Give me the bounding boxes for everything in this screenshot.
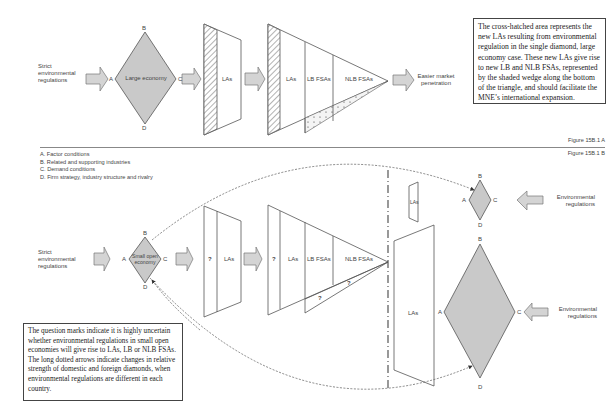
input-label-b: Strict environmental regulations [38,249,82,270]
legend-item-a: A. Factor conditions [40,151,153,159]
fs-vertex-a: A [462,197,466,204]
note-a: The cross-hatched area represents the ne… [473,18,606,104]
stage2-lb-b: LB FSAs [307,256,331,263]
foreign-las-large [394,225,434,386]
arrow-a-2 [245,67,265,91]
diamond-label-a: Large economy [120,75,172,82]
input-label-a: Strict environmental regulations [38,63,82,84]
fl-vertex-d: D [478,384,482,391]
arrow-a-1 [182,68,201,90]
foreign-large-las-label: LAs [408,310,418,317]
input-arrow-b [94,247,110,271]
caption-b: Figure 15B.1 B [568,150,605,156]
stage2-question-b: ? [272,256,276,263]
foreign-small-las-label: LAs [410,199,419,206]
vertex-a-b: A [122,256,126,263]
stage2-nlb-a: NLB FSAs [345,76,373,83]
fs-vertex-d: D [478,222,482,229]
stage2-las-b: LAs [288,256,298,263]
arrow-b-1 [176,247,193,271]
caption-a: Figure 15B.1 A [568,137,605,143]
stage2-lb-a: LB FSAs [307,76,331,83]
env-arrow-large [524,303,548,321]
output-arrow-a [393,69,414,91]
stage2-nlb-b: NLB FSAs [345,256,373,263]
diamond-foreign-large [444,244,515,378]
vertex-b-a: B [142,25,146,32]
legend-item-c: C. Demand conditions [40,166,153,174]
fl-vertex-a: A [438,309,442,316]
vertex-d-b: D [143,284,147,291]
input-arrow-a [86,67,108,91]
wedge-question-1: ? [318,295,322,302]
figure-divider [40,147,605,148]
note-b: The question marks indicate it is highly… [23,323,183,401]
stage1-label-b: LAs [224,256,234,263]
stage1-question-b: ? [208,256,212,263]
foreign-small-input-label: Environmental regulations [545,194,595,208]
legend-item-d: D. Firm strategy, industry structure and… [40,174,153,182]
wedge-question-2: ? [347,280,351,287]
stage2-las-a: LAs [286,76,296,83]
fs-vertex-b: B [478,173,482,180]
vertex-c-b: C [163,256,167,263]
vertex-a-a: A [109,76,113,83]
arrow-b-2 [244,247,262,271]
stage1-label-a: LAs [222,76,232,83]
fl-vertex-b: B [478,236,482,243]
diamond-foreign-small [469,180,491,220]
output-label-a: Easier market penetration [415,73,457,87]
legend-item-b: B. Related and supporting industries [40,159,153,167]
fl-vertex-c: C [517,309,521,316]
diamond-label-b: Small open economy [129,253,161,265]
vertex-d-a: D [142,125,146,132]
foreign-large-input-label: Environmental regulations [549,306,597,320]
fs-vertex-c: C [493,197,497,204]
vertex-c-a: C [178,76,182,83]
env-arrow-small [517,191,543,210]
vertex-b-b: B [143,230,147,237]
legend: A. Factor conditions B. Related and supp… [40,151,153,181]
